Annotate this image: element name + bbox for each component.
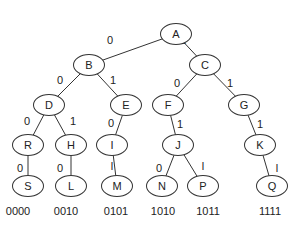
- edge-label: 1: [177, 118, 183, 130]
- edge-label: 0: [156, 162, 162, 174]
- leaf-code: 0101: [104, 205, 128, 217]
- tree-node-N: N: [146, 175, 178, 197]
- leaf-code: 0010: [54, 205, 78, 217]
- tree-node-R: R: [12, 134, 44, 156]
- leaf-code: 1010: [151, 205, 175, 217]
- edge-label: 0: [17, 162, 23, 174]
- edge-label: 1: [257, 118, 263, 130]
- tree-node-D: D: [33, 94, 65, 116]
- tree-node-C: C: [189, 54, 221, 76]
- tree-node-G: G: [228, 94, 260, 116]
- tree-node-F: F: [152, 94, 184, 116]
- edge-label: 0: [57, 74, 63, 86]
- edge-label: 1: [70, 115, 76, 127]
- tree-node-P: P: [187, 175, 219, 197]
- tree-node-M: M: [101, 175, 133, 197]
- edge-label: 1: [110, 74, 116, 86]
- tree-node-J: J: [162, 134, 194, 156]
- tree-node-E: E: [110, 94, 142, 116]
- tree-node-H: H: [55, 134, 87, 156]
- edge-label: 0: [107, 34, 113, 46]
- tree-node-I: I: [96, 134, 128, 156]
- edge-label: 0: [57, 162, 63, 174]
- edge-label: 0: [24, 115, 30, 127]
- edge-label: 0: [174, 77, 180, 89]
- edge-label: 1: [227, 77, 233, 89]
- tree-node-S: S: [12, 175, 44, 197]
- tree-node-A: A: [160, 23, 192, 45]
- leaf-code: 0000: [6, 205, 30, 217]
- tree-node-B: B: [73, 54, 105, 76]
- edge-label: l: [111, 160, 113, 172]
- edge-label: 0: [108, 117, 114, 129]
- edge-label: l: [202, 160, 204, 172]
- edge-label: l: [276, 162, 278, 174]
- tree-node-K: K: [244, 134, 276, 156]
- tree-node-L: L: [55, 175, 87, 197]
- leaf-code: 1111: [259, 205, 281, 217]
- leaf-code: 1011: [196, 205, 220, 217]
- tree-node-Q: Q: [256, 175, 288, 197]
